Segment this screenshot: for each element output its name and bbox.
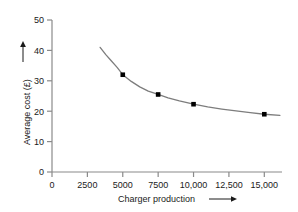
chart-container: 01020304050 025005000750010,00012,50015,… bbox=[0, 0, 298, 212]
y-axis-title: Average cost (£) bbox=[22, 79, 32, 145]
y-tick-label: 40 bbox=[34, 46, 44, 56]
y-tick-label: 50 bbox=[34, 15, 44, 25]
data-point bbox=[156, 92, 161, 97]
x-tick-label: 7500 bbox=[148, 180, 168, 190]
y-tick-label: 30 bbox=[34, 76, 44, 86]
data-point bbox=[262, 112, 267, 117]
data-point bbox=[191, 102, 196, 107]
x-tick-label: 5000 bbox=[113, 180, 133, 190]
y-tick-label: 20 bbox=[34, 107, 44, 117]
average-cost-line-chart: 01020304050 025005000750010,00012,50015,… bbox=[0, 0, 298, 212]
x-axis-title: Charger production bbox=[118, 194, 195, 204]
x-tick-label: 2500 bbox=[77, 180, 97, 190]
data-point bbox=[120, 72, 125, 77]
x-tick-label: 15,000 bbox=[251, 180, 279, 190]
x-tick-label: 0 bbox=[49, 180, 54, 190]
x-tick-label: 10,000 bbox=[180, 180, 208, 190]
x-tick-label: 12,500 bbox=[215, 180, 243, 190]
y-tick-label: 0 bbox=[39, 167, 44, 177]
y-tick-label: 10 bbox=[34, 137, 44, 147]
